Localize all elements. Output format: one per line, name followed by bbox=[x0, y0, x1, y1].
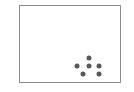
data-point bbox=[87, 56, 92, 61]
figure-root bbox=[0, 0, 134, 92]
data-point bbox=[75, 64, 80, 69]
data-point bbox=[81, 72, 86, 77]
plot-panel bbox=[19, 5, 121, 83]
data-point bbox=[97, 64, 102, 69]
data-point bbox=[87, 64, 92, 69]
plot-area bbox=[20, 6, 120, 82]
data-point bbox=[97, 72, 102, 77]
